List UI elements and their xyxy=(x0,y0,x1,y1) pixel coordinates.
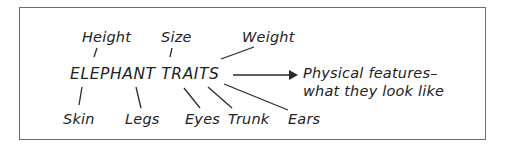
result-line-1: Physical features– xyxy=(303,65,438,81)
connector-trunk xyxy=(208,87,232,108)
trait-weight: Weight xyxy=(242,29,295,45)
trait-height: Height xyxy=(82,29,131,45)
trait-trunk: Trunk xyxy=(228,111,269,127)
trait-eyes: Eyes xyxy=(185,111,220,127)
trait-skin: Skin xyxy=(63,111,95,127)
connector-weight xyxy=(221,47,254,59)
connector-height xyxy=(94,48,97,57)
connector-size xyxy=(170,48,172,57)
connector-legs xyxy=(136,87,141,108)
center-topic: ELEPHANT TRAITS xyxy=(70,66,220,82)
result-line-2: what they look like xyxy=(303,83,444,99)
trait-ears: Ears xyxy=(288,111,320,127)
arrow-right-icon xyxy=(289,70,298,80)
connector-skin xyxy=(79,87,82,105)
trait-legs: Legs xyxy=(125,111,160,127)
connector-eyes xyxy=(184,88,200,108)
trait-size: Size xyxy=(161,29,192,45)
connector-ears xyxy=(224,84,288,110)
